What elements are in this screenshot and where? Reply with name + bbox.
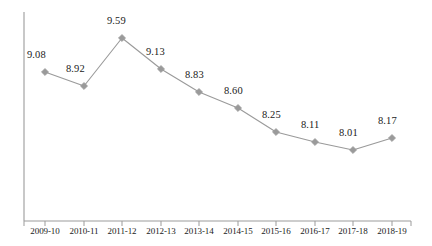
x-axis-label-2010-11: 2010-11 bbox=[63, 227, 105, 236]
x-axis-label-2017-18: 2017-18 bbox=[332, 227, 374, 236]
x-axis-label-2009-10: 2009-10 bbox=[24, 227, 66, 236]
data-label-2011-12: 9.59 bbox=[107, 16, 126, 27]
data-point-marker-2014-15 bbox=[234, 104, 241, 111]
x-axis-label-2013-14: 2013-14 bbox=[178, 227, 220, 236]
data-label-2010-11: 8.92 bbox=[66, 64, 85, 75]
data-label-2012-13: 9.13 bbox=[146, 47, 165, 58]
data-point-marker-2009-10 bbox=[41, 68, 48, 75]
data-label-2015-16: 8.25 bbox=[262, 110, 281, 121]
line-chart: 9.088.929.599.138.838.608.258.118.018.17… bbox=[0, 0, 432, 246]
data-point-marker-2013-14 bbox=[195, 88, 202, 95]
data-label-2018-19: 8.17 bbox=[378, 116, 397, 127]
x-axis-label-2014-15: 2014-15 bbox=[217, 227, 259, 236]
data-label-2009-10: 9.08 bbox=[27, 50, 46, 61]
x-axis-label-2016-17: 2016-17 bbox=[294, 227, 336, 236]
data-label-2016-17: 8.11 bbox=[301, 120, 319, 131]
x-axis-label-2011-12: 2011-12 bbox=[101, 227, 143, 236]
data-point-marker-2017-18 bbox=[349, 146, 356, 153]
chart-plot-area bbox=[0, 0, 432, 246]
x-axis-label-2015-16: 2015-16 bbox=[255, 227, 297, 236]
data-label-2017-18: 8.01 bbox=[339, 128, 358, 139]
x-axis-label-2018-19: 2018-19 bbox=[371, 227, 413, 236]
data-point-marker-2016-17 bbox=[311, 138, 318, 145]
data-label-2014-15: 8.60 bbox=[224, 86, 243, 97]
data-label-2013-14: 8.83 bbox=[185, 70, 204, 81]
data-point-marker-2018-19 bbox=[388, 134, 395, 141]
axis-group bbox=[24, 12, 411, 221]
x-axis-label-2012-13: 2012-13 bbox=[140, 227, 182, 236]
data-point-marker-2015-16 bbox=[272, 128, 279, 135]
